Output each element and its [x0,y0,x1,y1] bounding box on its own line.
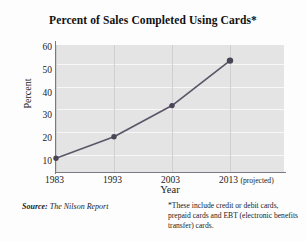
x-axis-title: Year [56,184,284,195]
footnote-line-1: *These include credit or debit cards, [168,201,298,211]
gridline-40 [56,109,284,110]
gridline-30 [56,132,284,133]
footnote-line-2: prepaid cards and EBT (electronic [168,211,272,220]
y-tick-10: 10 [28,156,52,166]
y-tick-60: 60 [28,42,52,52]
gridline-1993 [114,45,115,172]
chart-title: Percent of Sales Completed Using Cards* [0,14,306,26]
gridline-2013 [230,45,231,172]
gridline-60 [56,64,284,65]
y-axis-title: Percent [22,59,33,129]
gridline-20 [56,155,284,156]
y-axis-line [55,41,56,174]
x-axis-line [55,172,286,173]
source-label: Source: [22,202,48,211]
footnote-asterisk: *These include credit or debit cards, pr… [168,201,298,231]
y-tick-20: 20 [28,133,52,143]
chart-figure: Percent of Sales Completed Using Cards* … [0,0,306,241]
source-value: The Nilson Report [48,202,109,211]
plot-area [56,45,284,172]
source-note: Source: The Nilson Report [22,202,108,211]
gridline-50 [56,87,284,88]
gridline-2003 [172,45,173,172]
